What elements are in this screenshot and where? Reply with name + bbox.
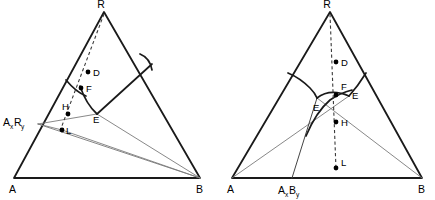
right-corner-label-B: B xyxy=(289,184,296,196)
right-point-D xyxy=(334,60,339,65)
left-point-label-F: F xyxy=(86,83,92,94)
left-corner-label-A: A xyxy=(3,116,10,128)
right-point-F xyxy=(334,93,339,98)
right-point-label-F: F xyxy=(341,81,347,92)
right-point-L xyxy=(334,166,339,171)
geometry-figure-svg: R A B D F E H L A x R y xyxy=(0,0,435,200)
right-corner-label-B-sub: y xyxy=(296,191,300,199)
left-point-H xyxy=(66,112,71,117)
left-vertex-label-R: R xyxy=(97,0,105,10)
left-arc-upper-right-cap xyxy=(140,54,152,70)
right-vertex-label-B: B xyxy=(418,183,425,195)
left-point-F xyxy=(79,86,84,91)
left-corner-label-AxRy: A x R y xyxy=(3,116,25,131)
right-arc-lower-left-sweep xyxy=(306,90,352,136)
right-line-B-to-E-left xyxy=(317,98,422,178)
left-point-label-D: D xyxy=(93,67,100,78)
right-point-label-L: L xyxy=(341,157,346,168)
right-corner-label-AxBy: A x B y xyxy=(278,184,300,199)
left-triangle-group: R A B D F E H L A x R y xyxy=(3,0,203,195)
left-line-E-to-B xyxy=(97,114,200,178)
right-vertex-label-A: A xyxy=(227,183,234,195)
right-point-label-E-right: E xyxy=(352,90,358,101)
right-point-H xyxy=(334,120,339,125)
left-point-label-L: L xyxy=(66,125,71,136)
left-point-D xyxy=(86,70,91,75)
right-point-label-D: D xyxy=(341,57,348,68)
left-arc-E-to-upper-right xyxy=(97,64,152,114)
left-corner-label-R-sub: y xyxy=(21,123,25,131)
right-corner-label-A: A xyxy=(278,184,285,196)
right-dashed-altitude xyxy=(330,14,336,169)
left-point-L xyxy=(60,128,65,133)
left-vertex-label-B: B xyxy=(196,183,203,195)
right-point-label-E-left: E xyxy=(313,102,319,113)
right-triangle-outline xyxy=(232,12,422,178)
left-point-label-E: E xyxy=(93,114,99,125)
right-point-label-H: H xyxy=(341,117,348,128)
left-triangle-outline xyxy=(14,12,200,178)
right-line-A-to-E-right xyxy=(232,96,349,178)
left-vertex-label-A: A xyxy=(9,183,16,195)
right-triangle-group: R A B D F E E H L A x B y xyxy=(227,0,425,199)
figure-root: R A B D F E H L A x R y xyxy=(0,0,435,200)
left-point-label-H: H xyxy=(62,101,69,112)
right-vertex-label-R: R xyxy=(323,0,331,10)
